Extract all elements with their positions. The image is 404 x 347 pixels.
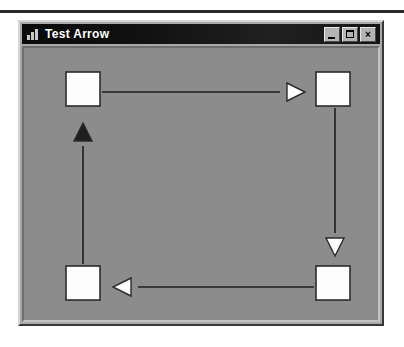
window-controls: × [324, 27, 376, 42]
page-top-divider [0, 10, 404, 13]
arrow-right-down-direction-head [326, 238, 344, 256]
arrow-heads [74, 83, 344, 296]
drawing-canvas[interactable] [22, 46, 380, 322]
node-top-left[interactable] [66, 72, 100, 106]
arrow-top-right-direction-head [287, 83, 305, 101]
maximize-button[interactable] [342, 27, 358, 42]
connector-lines [83, 92, 335, 287]
node-top-right[interactable] [316, 72, 350, 106]
window-title: Test Arrow [45, 27, 324, 41]
diagram-svg [24, 48, 378, 320]
node-bottom-left[interactable] [66, 266, 100, 300]
minimize-icon [328, 37, 335, 39]
application-window: Test Arrow × [18, 20, 384, 326]
arrow-left-up-direction-head [74, 123, 92, 141]
window-titlebar[interactable]: Test Arrow × [22, 24, 380, 44]
close-button[interactable]: × [360, 27, 376, 42]
node-bottom-right[interactable] [316, 266, 350, 300]
arrow-bottom-left-direction-head [113, 278, 131, 296]
minimize-button[interactable] [324, 27, 340, 42]
maximize-icon [346, 30, 354, 38]
node-squares [66, 72, 350, 300]
close-icon: × [361, 28, 375, 41]
bar-chart-icon [26, 27, 41, 42]
